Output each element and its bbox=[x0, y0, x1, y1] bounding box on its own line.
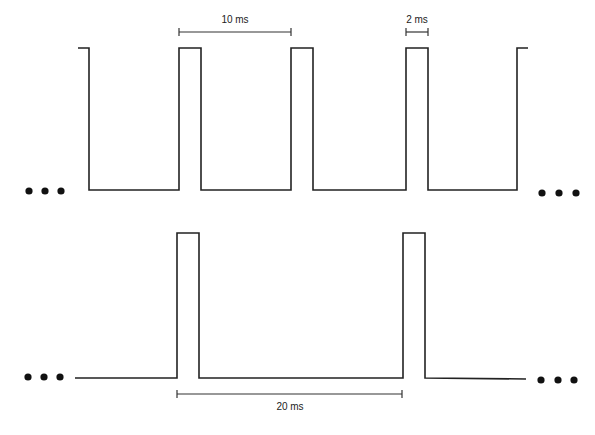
top-right-ellipsis-icon bbox=[538, 189, 579, 196]
pulse-diagram: 10 ms 2 ms 20 ms bbox=[0, 0, 595, 435]
period-label-20ms: 20 ms bbox=[276, 401, 303, 412]
bottom-pulse-train bbox=[75, 233, 526, 379]
period-dimension-20ms: 20 ms bbox=[177, 390, 402, 412]
bottom-left-ellipsis-icon bbox=[24, 373, 63, 380]
bottom-right-ellipsis-icon bbox=[537, 376, 577, 383]
top-pulse-train bbox=[78, 48, 528, 190]
period-label-10ms: 10 ms bbox=[221, 14, 248, 25]
top-left-ellipsis-icon bbox=[25, 187, 64, 194]
period-dimension-10ms: 10 ms bbox=[179, 14, 291, 36]
pulse-width-label-2ms: 2 ms bbox=[406, 14, 428, 25]
bottom-waveform bbox=[75, 233, 526, 379]
top-waveform bbox=[78, 48, 528, 190]
pulse-width-dimension-2ms: 2 ms bbox=[406, 14, 428, 36]
